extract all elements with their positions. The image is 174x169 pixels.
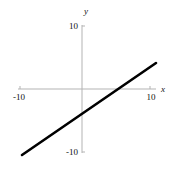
y-axis-label: y xyxy=(83,6,88,16)
x-axis-tick-label-max: 10 xyxy=(147,92,157,102)
chart-canvas: x y -10 10 10 -10 xyxy=(0,0,174,169)
x-axis-label: x xyxy=(160,84,165,94)
y-axis-tick-label-max: 10 xyxy=(69,21,79,31)
line-chart-figure: x y -10 10 10 -10 xyxy=(0,0,174,169)
data-line-series xyxy=(22,63,156,155)
x-axis-tick-label-min: -10 xyxy=(13,92,25,102)
y-axis-tick-label-min: -10 xyxy=(66,147,78,157)
